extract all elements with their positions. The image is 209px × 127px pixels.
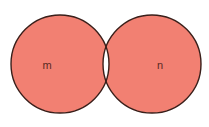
set-n-label: n: [157, 59, 163, 71]
set-m-label: m: [42, 59, 51, 71]
venn-diagram: m n: [0, 0, 209, 127]
